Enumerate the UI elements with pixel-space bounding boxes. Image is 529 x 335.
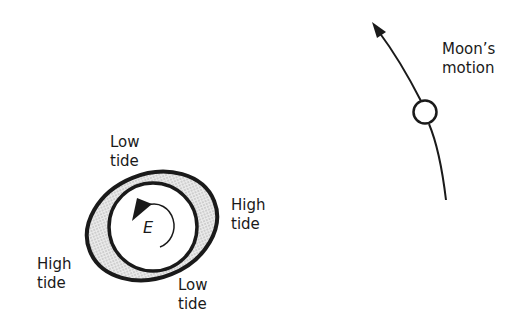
moon-motion-label: Moon’s motion [442, 40, 495, 78]
label-line: Moon’s [442, 40, 495, 59]
high-tide-left-label: High tide [37, 255, 71, 293]
moon-circle [414, 101, 437, 124]
label-line: tide [178, 295, 208, 314]
orbit-arrowhead-icon [372, 22, 386, 38]
earth-label: E [143, 218, 153, 237]
label-line: Low [178, 276, 208, 295]
high-tide-right-label: High tide [231, 196, 265, 234]
label-line: tide [110, 152, 140, 171]
low-tide-top-label: Low tide [110, 133, 140, 171]
label-line: High [231, 196, 265, 215]
label-line: tide [37, 274, 71, 293]
label-line: tide [231, 215, 265, 234]
label-line: motion [442, 59, 495, 78]
label-line: High [37, 255, 71, 274]
low-tide-bottom-label: Low tide [178, 276, 208, 314]
label-line: Low [110, 133, 140, 152]
